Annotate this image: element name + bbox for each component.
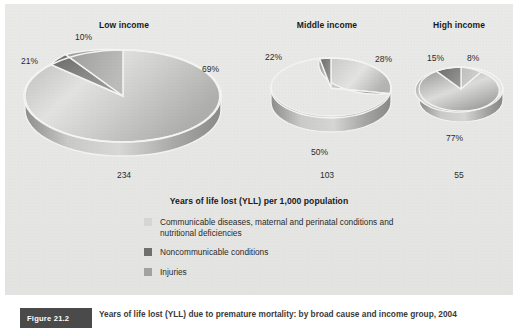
- chart-total-low-income: 234: [9, 170, 239, 180]
- legend-label-noncommunicable: Noncommunicable conditions: [160, 247, 268, 258]
- pie-label-high-15: 15%: [427, 53, 444, 63]
- legend: Years of life lost (YLL) per 1,000 popul…: [5, 196, 513, 286]
- chart-high-income: High income: [405, 4, 513, 194]
- legend-item-communicable: Communicable diseases, maternal and peri…: [144, 217, 513, 238]
- legend-item-injuries: Injuries: [144, 267, 513, 278]
- legend-swatch-icon-communicable: [144, 218, 152, 226]
- legend-swatch-icon-noncommunicable: [144, 248, 152, 256]
- pie-label-high-77: 77%: [446, 133, 463, 143]
- figure-number-badge: Figure 21.2: [20, 308, 92, 328]
- pie-middle-income: [269, 56, 393, 140]
- legend-label-communicable: Communicable diseases, maternal and peri…: [160, 217, 398, 238]
- pie-low-income: [23, 48, 223, 160]
- pie-label-low-21: 21%: [21, 56, 38, 66]
- chart-panel: Low income: [5, 4, 513, 295]
- legend-item-noncommunicable: Noncommunicable conditions: [144, 247, 513, 258]
- pie-label-low-10: 10%: [75, 32, 92, 42]
- chart-total-middle-income: 103: [253, 170, 401, 180]
- pie-label-high-8: 8%: [467, 53, 479, 63]
- chart-title-high-income: High income: [405, 20, 513, 30]
- pie-label-middle-28: 28%: [375, 54, 392, 64]
- figure-caption-bar: Figure 21.2 Years of life lost (YLL) due…: [0, 303, 517, 325]
- figure-caption-text: Years of life lost (YLL) due to prematur…: [99, 309, 514, 320]
- legend-label-injuries: Injuries: [160, 267, 187, 278]
- chart-title-low-income: Low income: [9, 20, 239, 30]
- pie-label-middle-22: 22%: [265, 52, 282, 62]
- chart-low-income: Low income: [9, 4, 239, 194]
- pie-high-income: [417, 66, 505, 130]
- legend-items: Communicable diseases, maternal and peri…: [144, 217, 513, 277]
- chart-total-high-income: 55: [405, 170, 513, 180]
- pie-label-middle-50: 50%: [311, 147, 328, 157]
- legend-swatch-icon-injuries: [144, 268, 152, 276]
- legend-title: Years of life lost (YLL) per 1,000 popul…: [5, 196, 513, 206]
- chart-middle-income: Middle income: [253, 4, 401, 194]
- pie-label-low-69: 69%: [202, 64, 219, 74]
- chart-title-middle-income: Middle income: [253, 20, 401, 30]
- pie-chart-group: Low income: [5, 4, 513, 194]
